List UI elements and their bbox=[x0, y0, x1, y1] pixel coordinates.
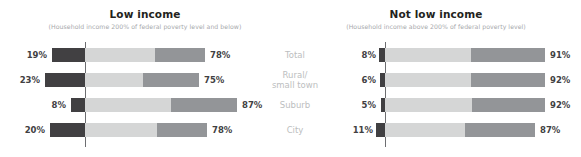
bar-segment-light bbox=[85, 48, 155, 62]
bar-segment-mid bbox=[471, 48, 545, 62]
bar-segment-negative bbox=[52, 48, 85, 62]
category-label-group: Total Rural/ small town Suburb City bbox=[250, 42, 340, 147]
bar-value-negative: 5% bbox=[334, 98, 376, 112]
bar-segment-light bbox=[85, 98, 171, 112]
bar-value-negative: 23% bbox=[0, 73, 40, 87]
bar-value-positive: 92% bbox=[550, 73, 581, 87]
bar-segment-mid bbox=[171, 98, 237, 112]
bar-segment-negative bbox=[50, 123, 85, 137]
bar-segment-light bbox=[85, 123, 157, 137]
panel-subtitle-not-low-income: (Household income above 200% of federal … bbox=[291, 23, 581, 30]
bar-value-positive: 78% bbox=[212, 123, 252, 137]
bar-segment-light bbox=[385, 48, 471, 62]
bar-value-positive: 92% bbox=[550, 98, 581, 112]
category-label-total: Total bbox=[250, 50, 340, 60]
bar-value-negative: 6% bbox=[334, 73, 376, 87]
bar-value-positive: 91% bbox=[550, 48, 581, 62]
plot-area-not-low-income: 8% 91% 6% 92% 5% 92% 11% 87% bbox=[340, 42, 581, 147]
category-label-rural-small-town: Rural/ small town bbox=[250, 70, 340, 90]
bar-segment-light bbox=[385, 98, 472, 112]
bar-segment-mid bbox=[155, 48, 205, 62]
bar-segment-mid bbox=[465, 123, 535, 137]
stacked-bar-chart: Low income (Household income 200% of fed… bbox=[0, 0, 581, 157]
bar-value-positive: 78% bbox=[210, 48, 250, 62]
bar-segment-negative bbox=[376, 123, 385, 137]
panel-subtitle-low-income: (Household income 200% of federal povert… bbox=[0, 23, 290, 30]
bar-value-positive: 87% bbox=[540, 123, 580, 137]
bar-value-negative: 8% bbox=[26, 98, 66, 112]
plot-area-low-income: 19% 78% 23% 75% 8% 87% 20% 78% bbox=[0, 42, 250, 147]
category-label-suburb: Suburb bbox=[250, 100, 340, 110]
bar-value-negative: 19% bbox=[0, 48, 47, 62]
bar-segment-negative bbox=[45, 73, 85, 87]
bar-segment-light bbox=[385, 123, 465, 137]
bar-segment-light bbox=[385, 73, 471, 87]
panel-title-not-low-income: Not low income bbox=[291, 8, 581, 20]
bar-segment-mid bbox=[143, 73, 199, 87]
panel-title-low-income: Low income bbox=[0, 8, 290, 20]
bar-value-negative: 8% bbox=[334, 48, 376, 62]
bar-segment-light bbox=[85, 73, 143, 87]
category-label-city: City bbox=[250, 125, 340, 135]
bar-value-positive: 75% bbox=[204, 73, 244, 87]
bar-segment-mid bbox=[472, 98, 545, 112]
bar-value-negative: 20% bbox=[3, 123, 45, 137]
bar-segment-mid bbox=[157, 123, 207, 137]
bar-value-negative: 11% bbox=[330, 123, 373, 137]
bar-segment-mid bbox=[471, 73, 545, 87]
bar-segment-negative bbox=[71, 98, 85, 112]
